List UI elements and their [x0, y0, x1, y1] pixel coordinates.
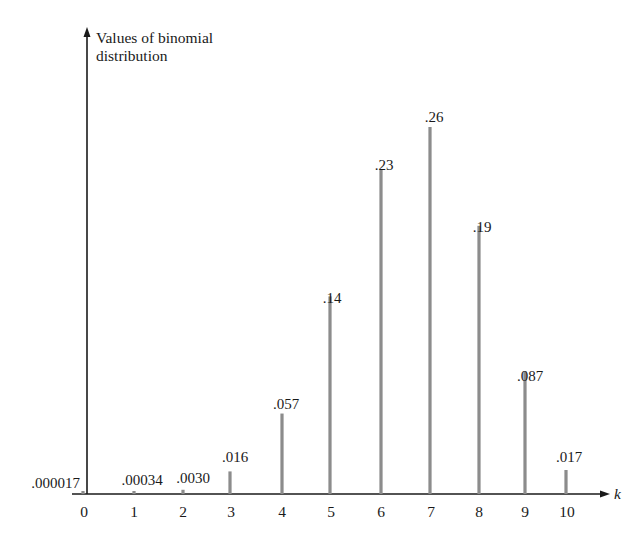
value-label: .000017	[31, 475, 80, 491]
value-label: .016	[222, 449, 249, 465]
y-axis-label-line2: distribution	[96, 47, 168, 64]
x-tick-label: 5	[327, 503, 335, 520]
x-tick-labels: 012345678910	[80, 503, 575, 520]
bars-group	[81, 127, 567, 494]
x-tick-label: 6	[377, 503, 385, 520]
value-label: .057	[273, 396, 300, 412]
bar-k-3	[228, 471, 231, 494]
y-axis-arrow-icon	[84, 27, 91, 37]
y-axis-label-line1: Values of binomial	[96, 29, 213, 46]
x-tick-label: 2	[179, 503, 187, 520]
bar-k-5	[328, 296, 331, 494]
bar-k-6	[379, 169, 382, 494]
value-label: .23	[375, 157, 394, 173]
bar-k-8	[477, 226, 480, 494]
bar-k-9	[523, 371, 526, 494]
x-axis-arrow-icon	[600, 491, 610, 498]
value-label: .19	[473, 219, 492, 235]
value-label: .0030	[176, 470, 210, 486]
value-label: .087	[517, 368, 544, 384]
bar-k-0	[81, 491, 84, 494]
x-tick-label: 4	[278, 503, 286, 520]
bar-k-4	[280, 414, 283, 494]
bar-k-2	[181, 490, 184, 494]
x-tick-label: 7	[427, 503, 435, 520]
bar-k-10	[564, 470, 567, 494]
x-tick-label: 9	[521, 503, 529, 520]
bar-k-1	[132, 491, 135, 494]
x-tick-label: 8	[475, 503, 483, 520]
value-label: .14	[323, 290, 342, 306]
bar-k-7	[428, 127, 431, 494]
x-axis-label: k	[614, 485, 622, 502]
x-tick-label: 3	[227, 503, 235, 520]
binomial-distribution-chart: Values of binomial distribution k 012345…	[0, 0, 640, 541]
value-label: .26	[425, 109, 444, 125]
value-labels: .000017.00034.0030.016.057.14.23.26.19.0…	[31, 109, 582, 491]
x-tick-label: 0	[80, 503, 88, 520]
value-label: .017	[556, 449, 583, 465]
x-tick-label: 10	[559, 503, 575, 520]
value-label: .00034	[121, 472, 163, 488]
x-tick-label: 1	[130, 503, 138, 520]
